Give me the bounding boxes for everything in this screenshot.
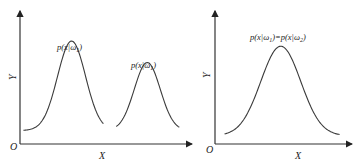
right-origin-label: O	[206, 144, 213, 155]
left-x-label: X	[98, 150, 106, 161]
left-y-label: Y	[7, 73, 18, 80]
right-x-label: X	[294, 150, 302, 161]
curve-p-x-omega1-b	[116, 63, 179, 128]
curve-p-x-omega1-a	[23, 41, 103, 130]
right-y-label: Y	[201, 71, 212, 78]
curve-p-x-omega1-equals-omega2	[225, 46, 340, 134]
diagram-canvas: O Y X p(x|ω1) p(x|ω1) O Y X p(x|ω1)=p(x|…	[0, 0, 358, 168]
curve-label-2: p(x|ω1)	[130, 60, 156, 71]
left-plot: O Y X p(x|ω1) p(x|ω1)	[7, 11, 192, 161]
curve-label-1: p(x|ω1)	[56, 42, 82, 53]
right-plot: O Y X p(x|ω1)=p(x|ω2)	[201, 11, 352, 161]
curve-label-3: p(x|ω1)=p(x|ω2)	[249, 32, 306, 43]
left-origin-label: O	[10, 141, 17, 152]
